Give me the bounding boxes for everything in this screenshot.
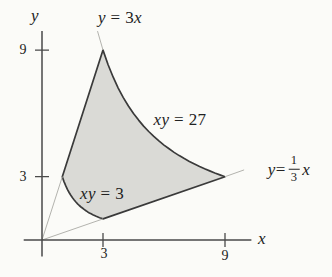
figure-canvas: y x 9 3 3 9 y = 3x xy = 27 xy = 3 y = 13… xyxy=(0,0,332,277)
x-tick-label-9: 9 xyxy=(222,249,229,263)
equation-label-xy-equals-3: xy = 3 xyxy=(80,185,124,202)
y-tick-label-3: 3 xyxy=(20,170,27,184)
plot-svg xyxy=(0,0,332,277)
equation-text: = xyxy=(276,161,286,178)
equation-var: x xyxy=(134,8,142,27)
y-axis-label: y xyxy=(31,7,39,24)
y-tick-label-9: 9 xyxy=(20,43,27,57)
equation-var: y xyxy=(268,161,276,178)
equation-var: xy xyxy=(154,110,170,129)
equation-label-y-equals-3x: y = 3x xyxy=(98,9,142,26)
x-axis-label: x xyxy=(258,230,266,247)
fraction-denominator: 3 xyxy=(291,170,298,185)
equation-var: y xyxy=(98,8,106,27)
equation-var: x xyxy=(302,161,310,178)
fraction-numerator: 1 xyxy=(289,154,300,170)
equation-text: = 3 xyxy=(96,184,124,203)
x-tick-label-3: 3 xyxy=(101,247,108,261)
equation-label-xy-equals-27: xy = 27 xyxy=(154,111,207,128)
equation-label-y-equals-one-third-x: y = 13x xyxy=(268,154,311,185)
equation-text: = 27 xyxy=(169,110,206,129)
equation-text: = 3 xyxy=(106,8,134,27)
fraction-one-third: 13 xyxy=(289,154,300,185)
equation-var: xy xyxy=(80,184,96,203)
